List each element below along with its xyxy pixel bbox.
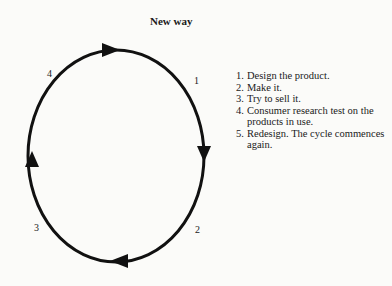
- cycle-ellipse: [28, 50, 204, 262]
- stage-label-1: 1: [194, 75, 199, 86]
- stage-label-2: 2: [195, 224, 200, 235]
- step-item: 3.Try to sell it.: [236, 93, 387, 105]
- stage-label-3: 3: [34, 222, 39, 233]
- arrow-left-icon: [110, 254, 128, 268]
- arrow-down-icon: [197, 146, 211, 162]
- step-item: 4.Consumer research test on the products…: [236, 105, 387, 128]
- stage-label-4: 4: [47, 68, 52, 79]
- step-item: 2.Make it.: [236, 82, 387, 94]
- steps-list: 1.Design the product. 2.Make it. 3.Try t…: [236, 70, 387, 151]
- arrow-right-icon: [102, 43, 120, 57]
- step-item: 5.Redesign. The cycle commences again.: [236, 128, 387, 151]
- step-item: 1.Design the product.: [236, 70, 387, 82]
